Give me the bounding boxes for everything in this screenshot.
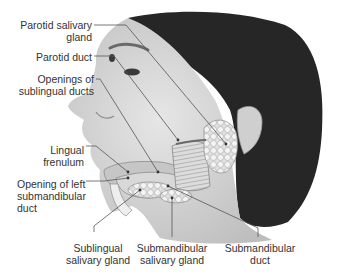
label-line: Parotid salivary (14, 19, 92, 31)
label-line: duct (17, 202, 97, 214)
parotid-gland (204, 120, 238, 173)
label-submandibular-duct: Submandibular duct (218, 242, 302, 266)
label-line: Parotid duct (14, 51, 92, 63)
label-line: salivary gland (130, 254, 214, 266)
label-line: frenulum (10, 156, 84, 168)
label-line: duct (218, 254, 302, 266)
label-line: salivary gland (56, 254, 140, 266)
label-opening-of-left-submandibular-duct: Opening of left submandibular duct (17, 178, 97, 214)
label-line: Opening of left (17, 178, 97, 190)
label-line: Submandibular (218, 242, 302, 254)
submandibular-gland (160, 189, 192, 203)
label-line: gland (14, 31, 92, 43)
label-line: Submandibular (130, 242, 214, 254)
label-line: Lingual (10, 144, 84, 156)
label-submandibular-salivary-gland: Submandibular salivary gland (130, 242, 214, 266)
label-parotid-salivary-gland: Parotid salivary gland (14, 19, 92, 43)
label-line: Sublingual (56, 242, 140, 254)
label-parotid-duct: Parotid duct (14, 51, 92, 63)
salivary-gland-diagram: Parotid salivary gland Parotid duct Open… (0, 0, 344, 276)
label-sublingual-salivary-gland: Sublingual salivary gland (56, 242, 140, 266)
label-line: sublingual ducts (4, 85, 94, 97)
label-lingual-frenulum: Lingual frenulum (10, 144, 84, 168)
label-line: Openings of (4, 73, 94, 85)
label-openings-of-sublingual-ducts: Openings of sublingual ducts (4, 73, 94, 97)
label-line: submandibular (17, 190, 97, 202)
